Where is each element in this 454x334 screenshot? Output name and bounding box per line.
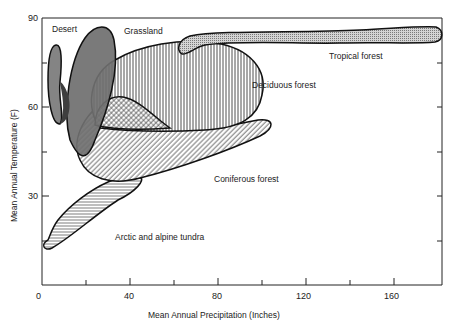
x-axis-ticks: [86, 278, 394, 285]
label-grassland: Grassland: [124, 26, 163, 36]
label-desert: Desert: [52, 24, 78, 34]
biome-chart: 0 40 80 120 160 90 60 30 Mean Annual Pre…: [0, 0, 454, 334]
y-tick-30: 30: [28, 191, 38, 201]
x-tick-120: 120: [296, 291, 311, 301]
x-tick-40: 40: [124, 291, 134, 301]
y-tick-60: 60: [28, 102, 38, 112]
x-axis-title: Mean Annual Precipitation (Inches): [148, 310, 280, 320]
label-coniferous: Coniferous forest: [214, 174, 279, 184]
y-tick-90: 90: [28, 13, 38, 23]
region-desert-narrow: [48, 45, 62, 124]
y-axis-title: Mean Annual Temperature (F): [9, 109, 19, 222]
x-tick-160: 160: [384, 291, 399, 301]
label-tropical: Tropical forest: [329, 51, 383, 61]
label-tundra: Arctic and alpine tundra: [115, 232, 205, 242]
x-tick-0: 0: [36, 291, 41, 301]
x-tick-80: 80: [212, 291, 222, 301]
label-deciduous: Deciduous forest: [252, 80, 316, 90]
